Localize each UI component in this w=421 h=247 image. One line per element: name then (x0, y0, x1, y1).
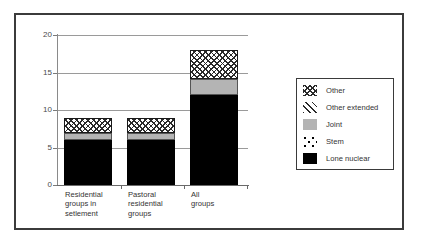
x-category-label-2: All groups (191, 190, 249, 209)
legend-swatch-stem-icon (303, 136, 317, 147)
bar-segment-other (190, 50, 238, 79)
bar-segment-lone-nuclear (190, 95, 238, 185)
chart-figure: 20 15 10 5 0 (0, 0, 421, 247)
y-tick-label-15: 15 (30, 69, 52, 77)
legend-item-other[interactable]: Other (303, 84, 393, 97)
legend-item-joint[interactable]: Joint (303, 118, 393, 131)
legend-item-stem[interactable]: Stem (303, 135, 393, 148)
bar-pastoral-residential-groups[interactable] (127, 35, 175, 185)
legend-label-joint: Joint (326, 120, 342, 129)
legend-swatch-other-extended-icon (303, 102, 317, 113)
y-tick-label-10: 10 (30, 106, 52, 114)
bar-residential-groups-in-setlement[interactable] (64, 35, 112, 185)
legend-label-other: Other (326, 86, 345, 95)
y-axis-tick-labels: 20 15 10 5 0 (26, 0, 52, 247)
bar-segment-joint (190, 79, 238, 96)
bar-all-groups[interactable] (190, 35, 238, 185)
bar-segment-lone-nuclear (64, 140, 112, 185)
x-category-label-0: Residential groups in setlement (65, 190, 123, 218)
legend-label-lone-nuclear: Lone nuclear (326, 154, 370, 163)
legend-label-stem: Stem (326, 137, 344, 146)
x-tick-mark-1 (121, 185, 122, 189)
bar-segment-joint (127, 133, 175, 141)
bar-segment-lone-nuclear (127, 140, 175, 185)
legend-item-other-extended[interactable]: Other extended (303, 101, 393, 114)
x-category-label-1: Pastoral residential groups (128, 190, 186, 218)
legend-label-other-extended: Other extended (326, 103, 378, 112)
y-tick-label-0: 0 (30, 181, 52, 189)
legend-swatch-other-icon (303, 85, 317, 96)
bar-segment-other (127, 118, 175, 133)
bar-segment-joint (64, 133, 112, 141)
x-axis-line (57, 185, 249, 186)
plot-area (58, 35, 248, 185)
y-tick-label-20: 20 (30, 31, 52, 39)
y-tick-label-5: 5 (30, 144, 52, 152)
chart-legend: Other Other extended Joint Stem Lone nuc… (296, 78, 394, 170)
bar-segment-other (64, 118, 112, 133)
legend-swatch-joint-icon (303, 119, 317, 130)
x-tick-mark-3 (247, 185, 248, 189)
legend-swatch-lone-nuclear-icon (303, 153, 317, 164)
legend-item-lone-nuclear[interactable]: Lone nuclear (303, 152, 393, 165)
x-tick-mark-2 (184, 185, 185, 189)
